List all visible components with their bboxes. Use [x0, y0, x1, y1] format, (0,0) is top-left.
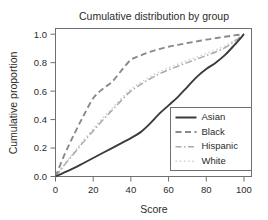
- x-tick-label: 0: [53, 184, 58, 195]
- legend-label-black: Black: [202, 126, 225, 137]
- y-tick-label: 1.0: [34, 29, 47, 40]
- y-axis-label: Cumulative proportion: [7, 51, 19, 154]
- legend-label-hispanic: Hispanic: [202, 140, 239, 151]
- y-tick-label: 0.0: [34, 171, 47, 182]
- y-tick-label: 0.6: [34, 86, 47, 97]
- x-tick-label: 80: [201, 184, 212, 195]
- legend-label-white: White: [202, 155, 226, 166]
- x-tick-label: 100: [236, 184, 252, 195]
- y-axis-ticks: 0.00.20.40.60.81.0: [34, 29, 56, 182]
- y-tick-label: 0.8: [34, 57, 47, 68]
- x-tick-label: 40: [126, 184, 137, 195]
- x-tick-label: 20: [88, 184, 99, 195]
- chart-figure: Cumulative distribution by group Cumulat…: [0, 0, 268, 220]
- chart-title: Cumulative distribution by group: [79, 10, 229, 22]
- x-axis-ticks: 020406080100: [53, 177, 252, 196]
- chart-legend: AsianBlackHispanicWhite: [171, 108, 252, 171]
- y-tick-label: 0.2: [34, 142, 47, 153]
- y-tick-label: 0.4: [34, 114, 47, 125]
- cumulative-distribution-chart: Cumulative distribution by group Cumulat…: [0, 0, 268, 220]
- x-axis-label: Score: [140, 203, 168, 215]
- x-tick-label: 60: [163, 184, 174, 195]
- legend-label-asian: Asian: [202, 111, 226, 122]
